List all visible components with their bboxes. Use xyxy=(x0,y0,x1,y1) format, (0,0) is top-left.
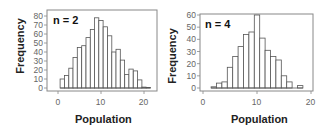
histogram-bar xyxy=(69,68,73,88)
y-axis-label: Frequency xyxy=(166,26,178,86)
histogram-bar xyxy=(112,52,116,88)
histogram-bar xyxy=(287,82,292,88)
x-tick-label: 20 xyxy=(139,97,148,107)
y-tick-label: 60 xyxy=(187,10,196,20)
histogram-bar xyxy=(281,76,286,88)
histogram-bar xyxy=(138,80,142,88)
histogram-bar xyxy=(108,36,112,88)
x-tick-label: 10 xyxy=(96,97,105,107)
x-tick-label: 10 xyxy=(252,97,261,107)
histogram-bar xyxy=(125,75,129,89)
y-tick-label: 60 xyxy=(34,29,43,39)
y-tick-label: 40 xyxy=(187,34,196,44)
histogram-panel-n4: n = 4 Frequency Population 0102030405060… xyxy=(166,0,332,134)
y-tick-label: 70 xyxy=(34,20,43,30)
y-tick-label: 20 xyxy=(34,65,43,75)
y-tick-label: 50 xyxy=(187,22,196,32)
histogram-bar xyxy=(103,27,107,88)
histogram-bar xyxy=(222,82,227,88)
histogram-bar xyxy=(254,15,259,88)
histogram-bar xyxy=(95,18,99,88)
histogram-bar xyxy=(249,32,254,88)
histogram-bar xyxy=(120,60,124,88)
histogram-bar xyxy=(271,56,276,88)
n-label: n = 4 xyxy=(205,18,230,30)
histogram-bar xyxy=(244,35,249,89)
y-tick-label: 50 xyxy=(34,38,43,48)
n-label: n = 2 xyxy=(53,14,78,26)
y-tick-label: 10 xyxy=(34,74,43,84)
histogram-bar xyxy=(238,47,243,88)
y-tick-label: 20 xyxy=(187,59,196,69)
y-tick-label: 0 xyxy=(38,83,43,93)
histogram-bar xyxy=(90,30,94,89)
histogram-bar xyxy=(276,60,281,88)
y-tick-label: 0 xyxy=(191,83,196,93)
histogram-bar xyxy=(82,46,86,88)
histogram-bar xyxy=(233,56,238,88)
histogram-bar xyxy=(133,71,137,88)
histogram-panel-n2: n = 2 Frequency Population 0102030405060… xyxy=(0,0,166,134)
x-tick-label: 0 xyxy=(55,97,60,107)
histogram-bar xyxy=(65,75,69,88)
histogram-bar xyxy=(265,50,270,88)
y-tick-label: 30 xyxy=(187,47,196,57)
histogram-bar xyxy=(73,57,77,88)
y-tick-label: 80 xyxy=(34,11,43,21)
histogram-bar xyxy=(60,79,64,88)
y-axis-label: Frequency xyxy=(14,16,26,76)
histogram-bar xyxy=(260,38,265,88)
histogram-bar xyxy=(77,48,81,89)
x-axis-label: Population xyxy=(231,113,288,125)
y-tick-label: 10 xyxy=(187,71,196,81)
histogram-bar xyxy=(116,49,120,88)
histogram-bar xyxy=(86,38,90,88)
x-tick-label: 20 xyxy=(306,97,315,107)
y-tick-label: 40 xyxy=(34,47,43,57)
histogram-bar xyxy=(227,67,232,88)
x-tick-label: 0 xyxy=(200,97,205,107)
histogram-bar xyxy=(217,83,222,88)
x-axis-label: Population xyxy=(75,113,132,125)
y-tick-label: 30 xyxy=(34,56,43,66)
histogram-bar xyxy=(99,21,103,89)
histogram-bar xyxy=(129,69,133,88)
